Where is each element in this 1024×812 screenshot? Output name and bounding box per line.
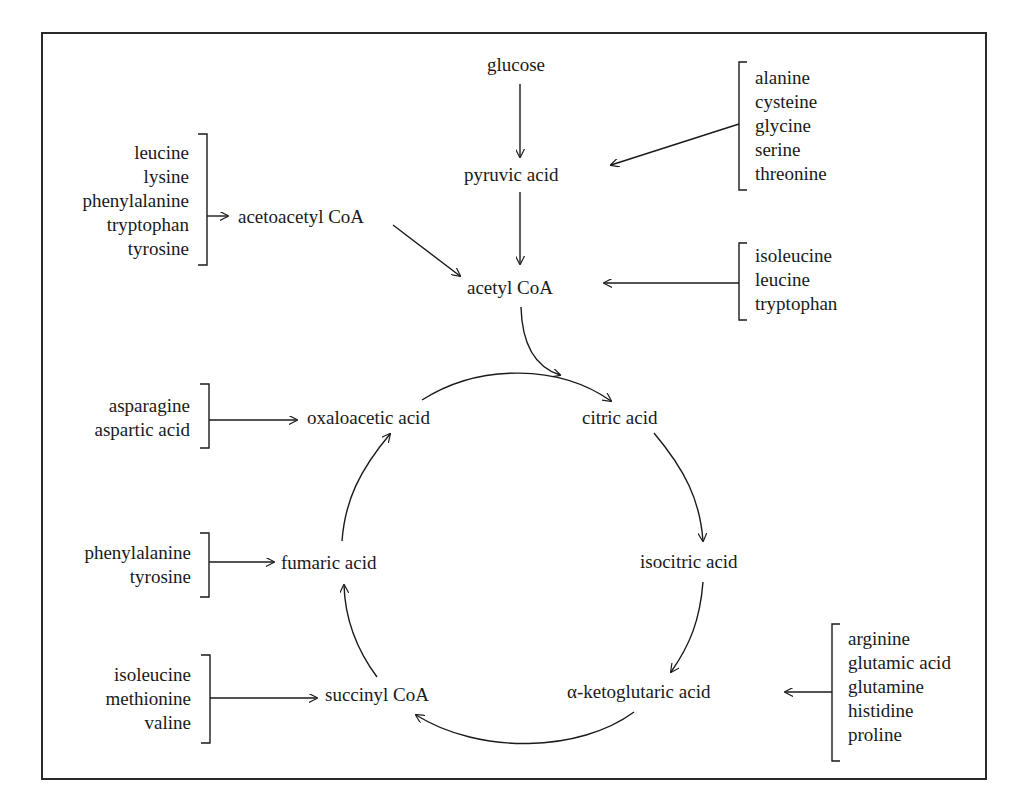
node-oxaloacetic-acid: oxaloacetic acid xyxy=(307,406,430,430)
group-to-acetoacetyl: leucine lysine phenylalanine tryptophan … xyxy=(82,141,189,261)
node-fumaric-acid: fumaric acid xyxy=(281,551,376,575)
amino-acid-label: glycine xyxy=(755,114,827,138)
amino-acid-label: aspartic acid xyxy=(95,418,190,442)
node-acetyl-coa: acetyl CoA xyxy=(467,276,553,300)
arrow-succinyl-fumaric xyxy=(344,585,377,677)
bracket-to-acetoacetyl xyxy=(198,134,207,265)
amino-acid-label: phenylalanine xyxy=(82,189,189,213)
amino-acid-label: isoleucine xyxy=(106,663,191,687)
group-to-oxaloacetic: asparagine aspartic acid xyxy=(95,394,190,442)
node-isocitric-acid: isocitric acid xyxy=(640,550,738,574)
arrow-oxaloacetic-citric xyxy=(422,373,611,401)
node-succinyl-coa: succinyl CoA xyxy=(325,683,429,707)
amino-acid-label: leucine xyxy=(82,141,189,165)
group-to-succinyl: isoleucine methionine valine xyxy=(106,663,191,735)
group-to-acetyl: isoleucine leucine tryptophan xyxy=(755,244,837,316)
bracket-to-oxaloacetic xyxy=(200,384,209,448)
arrow-fumaric-oxaloacetic xyxy=(342,434,390,541)
bracket-to-ketoglutaric xyxy=(832,624,840,761)
node-citric-acid: citric acid xyxy=(582,406,657,430)
group-to-fumaric: phenylalanine tyrosine xyxy=(84,541,191,589)
arrow-group-pyruvic xyxy=(611,124,739,165)
amino-acid-label: isoleucine xyxy=(755,244,837,268)
amino-acid-label: glutamic acid xyxy=(848,651,951,675)
bracket-to-pyruvic xyxy=(739,62,747,190)
amino-acid-label: asparagine xyxy=(95,394,190,418)
amino-acid-label: serine xyxy=(755,138,827,162)
node-glucose: glucose xyxy=(487,53,545,77)
node-pyruvic-acid: pyruvic acid xyxy=(464,163,558,187)
group-to-pyruvic: alanine cysteine glycine serine threonin… xyxy=(755,66,827,186)
arrow-citric-isocitric xyxy=(654,433,703,541)
amino-acid-label: threonine xyxy=(755,162,827,186)
node-alpha-ketoglutaric-acid: α-ketoglutaric acid xyxy=(567,680,710,704)
amino-acid-label: valine xyxy=(106,711,191,735)
arrow-acetoacetyl-acetyl xyxy=(393,225,460,276)
amino-acid-label: arginine xyxy=(848,627,951,651)
amino-acid-label: tyrosine xyxy=(82,237,189,261)
group-to-ketoglutaric: arginine glutamic acid glutamine histidi… xyxy=(848,627,951,747)
bracket-to-fumaric xyxy=(200,533,209,597)
bracket-to-acetyl xyxy=(739,243,747,320)
amino-acid-label: lysine xyxy=(82,165,189,189)
arrow-isocitric-ketoglutaric xyxy=(671,582,703,672)
amino-acid-label: proline xyxy=(848,723,951,747)
amino-acid-label: methionine xyxy=(106,687,191,711)
amino-acid-label: glutamine xyxy=(848,675,951,699)
amino-acid-label: tryptophan xyxy=(755,292,837,316)
amino-acid-label: leucine xyxy=(755,268,837,292)
amino-acid-label: tryptophan xyxy=(82,213,189,237)
amino-acid-label: alanine xyxy=(755,66,827,90)
arrow-acetyl-citric xyxy=(521,307,560,375)
amino-acid-label: phenylalanine xyxy=(84,541,191,565)
node-acetoacetyl-coa: acetoacetyl CoA xyxy=(238,205,364,229)
amino-acid-label: histidine xyxy=(848,699,951,723)
amino-acid-label: tyrosine xyxy=(84,565,191,589)
bracket-to-succinyl xyxy=(201,655,210,743)
amino-acid-label: cysteine xyxy=(755,90,827,114)
arrow-ketoglutaric-succinyl xyxy=(416,712,634,744)
